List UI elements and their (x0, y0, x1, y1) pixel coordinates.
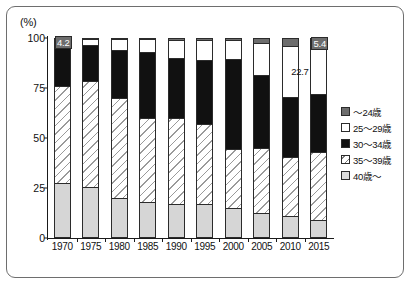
white-swatch (341, 123, 350, 132)
bar-2000[interactable] (225, 38, 242, 238)
x-tick-label-1995: 1995 (194, 241, 215, 252)
legend-item-4[interactable]: 40歳～ (341, 168, 403, 183)
bar-segment-age30_34 (54, 46, 71, 86)
x-tick (305, 238, 306, 242)
bar-segment-age40up (54, 183, 71, 238)
bar-segment-age25_29 (111, 39, 128, 50)
x-tick (105, 238, 106, 242)
bar-segment-age_u24 (168, 38, 185, 40)
x-tick (219, 238, 220, 242)
dark-gray-swatch (341, 107, 350, 116)
chart-page: (%) 1007550250 1970197519801985199019952… (0, 0, 410, 284)
x-tick-label-1970: 1970 (52, 241, 73, 252)
bar-segment-age40up (225, 208, 242, 238)
bar-1995[interactable] (196, 38, 213, 238)
x-tick (248, 238, 249, 242)
bar-segment-age25_29 (310, 49, 327, 94)
bar-segment-age35_39 (139, 118, 156, 202)
bar-segment-age40up (282, 216, 299, 238)
x-tick-label-1985: 1985 (137, 241, 158, 252)
bar-segment-age35_39 (168, 118, 185, 204)
bar-segment-age30_34 (310, 94, 327, 152)
x-tick (77, 238, 78, 242)
bar-segment-age25_29 (139, 39, 156, 52)
bar-2015[interactable] (310, 38, 327, 238)
bar-segment-age35_39 (111, 98, 128, 198)
x-tick (276, 238, 277, 242)
bar-segment-age30_34 (82, 45, 99, 81)
data-label-2015-5.4: 5.4 (311, 37, 328, 50)
legend-item-label: 40歳～ (353, 169, 382, 183)
hatched-swatch (341, 155, 350, 164)
legend-item-label: ～24歳 (353, 105, 382, 119)
bar-segment-age35_39 (253, 148, 270, 213)
legend-item-1[interactable]: 25～29歳 (341, 120, 403, 135)
bar-segment-age40up (168, 204, 185, 238)
light-gray-swatch (341, 171, 350, 180)
data-label-1970-4.2: 4.2 (55, 36, 72, 49)
bar-segment-age40up (111, 198, 128, 238)
bar-segment-age35_39 (54, 86, 71, 183)
legend-item-label: 25～29歳 (353, 121, 392, 135)
bar-segment-age25_29 (168, 40, 185, 58)
x-tick (134, 238, 135, 242)
bar-segment-age25_29 (196, 40, 213, 60)
x-tick-label-2005: 2005 (251, 241, 272, 252)
bar-segment-age35_39 (225, 149, 242, 208)
bar-segment-age30_34 (168, 58, 185, 118)
x-tick-label-1980: 1980 (109, 241, 130, 252)
bar-1980[interactable] (111, 38, 128, 238)
x-tick-label-2000: 2000 (223, 241, 244, 252)
bar-segment-age_u24 (225, 38, 242, 40)
bar-segment-age25_29 (253, 43, 270, 75)
bar-segment-age35_39 (82, 81, 99, 187)
bar-1975[interactable] (82, 38, 99, 238)
x-tick (162, 238, 163, 242)
bar-segment-age_u24 (253, 38, 270, 43)
legend-item-3[interactable]: 35～39歳 (341, 152, 403, 167)
bar-segment-age_u24 (282, 38, 299, 46)
chart-legend: ～24歳25～29歳30～34歳35～39歳40歳～ (341, 104, 403, 184)
legend-item-2[interactable]: 30～34歳 (341, 136, 403, 151)
y-tick-label: 100 (27, 32, 45, 44)
legend-item-label: 35～39歳 (353, 153, 392, 167)
bar-1970[interactable] (54, 38, 71, 238)
x-tick-label-2010: 2010 (280, 241, 301, 252)
bar-segment-age25_29 (225, 40, 242, 59)
bar-segment-age25_29 (82, 39, 99, 45)
bar-segment-age30_34 (196, 60, 213, 124)
bar-1985[interactable] (139, 38, 156, 238)
bar-segment-age30_34 (139, 52, 156, 118)
bar-segment-age35_39 (196, 124, 213, 204)
bar-segment-age_u24 (196, 38, 213, 40)
bar-segment-age30_34 (225, 59, 242, 149)
legend-item-0[interactable]: ～24歳 (341, 104, 403, 119)
bar-segment-age30_34 (253, 75, 270, 148)
bar-segment-age40up (82, 187, 99, 238)
x-tick-label-1975: 1975 (80, 241, 101, 252)
bar-segment-age40up (139, 202, 156, 238)
bar-segment-age_u24 (82, 38, 99, 39)
x-tick-label-1990: 1990 (166, 241, 187, 252)
bar-segment-age35_39 (282, 157, 299, 216)
bar-2005[interactable] (253, 38, 270, 238)
bar-segment-age_u24 (111, 38, 128, 39)
bar-segment-age30_34 (111, 50, 128, 98)
legend-item-label: 30～34歳 (353, 137, 392, 151)
bar-segment-age40up (253, 213, 270, 238)
bar-segment-age_u24 (139, 38, 156, 39)
black-swatch (341, 139, 350, 148)
x-tick-label-2015: 2015 (308, 241, 329, 252)
bar-1990[interactable] (168, 38, 185, 238)
y-axis-unit-label: (%) (20, 16, 37, 28)
bar-segment-age30_34 (282, 97, 299, 157)
data-label-2015-22.7: 22.7 (290, 66, 309, 77)
x-tick (191, 238, 192, 242)
bar-segment-age40up (310, 220, 327, 238)
bar-segment-age40up (196, 204, 213, 238)
bar-segment-age35_39 (310, 152, 327, 220)
